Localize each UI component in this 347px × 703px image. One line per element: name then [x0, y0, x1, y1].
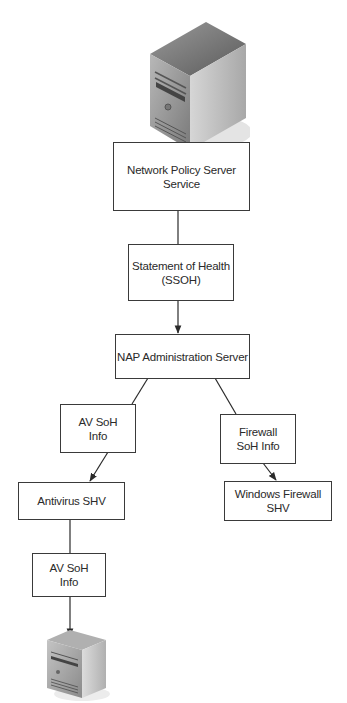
server-tower-icon	[42, 622, 112, 702]
node-nap-administration-server: NAP Administration Server	[115, 334, 250, 379]
node-statement-of-health: Statement of Health (SSOH)	[128, 244, 234, 301]
node-label: Network Policy Server Service	[127, 163, 236, 191]
node-label: Statement of Health (SSOH)	[132, 259, 230, 287]
edge-nap-avsoh	[132, 378, 148, 404]
edge-fwsoh-winfwshv	[263, 463, 276, 480]
node-label: Windows Firewall SHV	[235, 487, 321, 515]
node-network-policy-server-service: Network Policy Server Service	[113, 142, 250, 211]
node-label: AV SoH Info	[50, 561, 89, 589]
node-firewall-soh-info: Firewall SoH Info	[220, 414, 296, 464]
node-label: AV SoH Info	[79, 415, 118, 443]
node-antivirus-shv: Antivirus SHV	[18, 482, 125, 520]
node-av-soh-info-2: AV SoH Info	[32, 553, 106, 597]
edge-avsoh-avshv	[90, 452, 108, 481]
node-av-soh-info: AV SoH Info	[60, 404, 136, 453]
node-label: NAP Administration Server	[117, 350, 248, 364]
server-tower-icon	[140, 14, 250, 154]
node-label: Firewall SoH Info	[236, 425, 279, 453]
edge-nap-fwsoh	[215, 378, 236, 414]
node-windows-firewall-shv: Windows Firewall SHV	[224, 481, 332, 521]
node-label: Antivirus SHV	[37, 494, 105, 508]
